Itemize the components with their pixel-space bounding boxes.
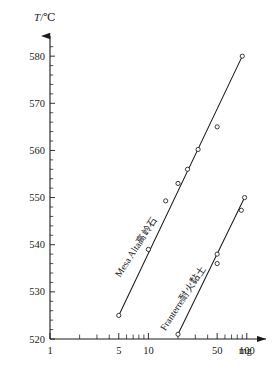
y-tick-label: 540 — [29, 239, 45, 250]
data-point — [185, 167, 189, 171]
y-axis-tick-labels: 520530540550560570580 — [29, 51, 45, 345]
curve-label: Franterre耐火黏土 — [158, 263, 208, 332]
y-tick-label: 570 — [29, 98, 45, 109]
y-tick-label: 520 — [29, 334, 45, 345]
trend-line — [178, 198, 245, 335]
y-axis: 520530540550560570580 — [29, 36, 55, 345]
chart-figure: 520530540550560570580 151050100 mg T/℃ M… — [0, 0, 278, 370]
y-axis-title: T/℃ — [34, 11, 56, 23]
x-axis: 151050100 mg — [47, 333, 266, 356]
chart-canvas: 520530540550560570580 151050100 mg T/℃ M… — [0, 0, 278, 370]
y-axis-ticks — [50, 47, 55, 339]
data-point — [215, 125, 219, 129]
x-axis-tick-labels: 151050100 — [47, 345, 254, 356]
data-point — [215, 261, 219, 265]
data-point — [176, 181, 180, 185]
data-point — [176, 332, 180, 336]
data-point — [117, 313, 121, 317]
y-tick-label: 530 — [29, 286, 45, 297]
y-tick-label: 560 — [29, 145, 45, 156]
x-axis-unit-label: mg — [239, 345, 252, 356]
curve-label: Mesa Alta高岭石 — [112, 215, 159, 279]
data-point — [240, 54, 244, 58]
series-mesa-alta — [117, 54, 245, 317]
data-point — [242, 195, 246, 199]
series-franterre — [176, 195, 247, 336]
x-tick-label: 50 — [212, 345, 223, 356]
x-tick-label: 5 — [116, 345, 121, 356]
x-axis-minor-ticks — [80, 335, 243, 340]
data-point — [239, 208, 243, 212]
data-point — [146, 247, 150, 251]
x-tick-label: 10 — [143, 345, 154, 356]
x-tick-label: 1 — [47, 345, 52, 356]
data-point — [164, 199, 168, 203]
data-point — [196, 147, 200, 151]
curve-labels: Mesa Alta高岭石Franterre耐火黏土 — [112, 215, 207, 333]
y-tick-label: 550 — [29, 192, 45, 203]
y-tick-label: 580 — [29, 51, 45, 62]
data-point — [215, 252, 219, 256]
trend-line — [119, 56, 243, 315]
